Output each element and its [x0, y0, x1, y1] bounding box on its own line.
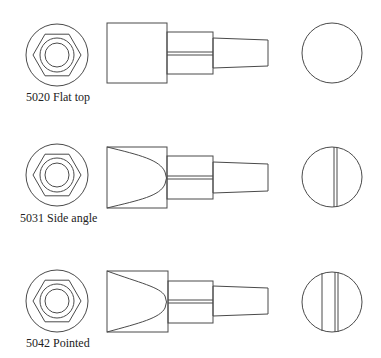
variant-5020-flat-top	[26, 23, 362, 86]
hex-end-view-icon	[26, 144, 88, 206]
variant-5031-side-angle	[26, 144, 362, 208]
hex-end-view-icon	[26, 24, 88, 86]
hex-end-view-icon	[26, 270, 88, 332]
end-face-view	[302, 147, 362, 207]
side-profile	[107, 271, 268, 332]
variant-label-5020: 5020 Flat top	[26, 91, 90, 103]
side-profile	[107, 147, 268, 208]
end-face-view	[302, 272, 362, 332]
variant-5042-pointed	[26, 270, 362, 332]
variant-label-5042: 5042 Pointed	[26, 337, 90, 349]
end-face-view	[302, 23, 362, 83]
diagram-canvas	[0, 0, 381, 358]
side-profile	[107, 23, 268, 83]
variant-label-5031: 5031 Side angle	[20, 212, 97, 224]
